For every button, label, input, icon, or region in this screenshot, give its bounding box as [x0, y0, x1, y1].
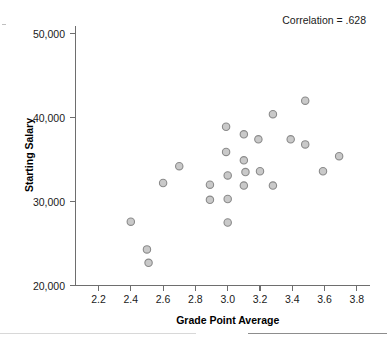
- y-axis-title: Starting Salary: [23, 118, 35, 192]
- x-ticks-group: [99, 286, 357, 292]
- data-point: [224, 172, 231, 179]
- data-point: [319, 168, 326, 175]
- data-point: [302, 97, 309, 104]
- y-tick-label-40000: 40,000: [33, 112, 65, 124]
- data-point: [224, 195, 231, 202]
- x-tick-label-3-8: 3.8: [350, 293, 365, 305]
- data-point: [224, 219, 231, 226]
- data-point: [206, 196, 213, 203]
- y-tick-label-30000: 30,000: [33, 196, 65, 208]
- data-point: [287, 136, 294, 143]
- axes-group: [76, 26, 371, 286]
- scatter-plot-figure: 50,000 40,000 30,000 20,000 2.2 2.4 2.6 …: [0, 0, 387, 342]
- x-tick-label-2-6: 2.6: [156, 293, 171, 305]
- data-point: [222, 123, 229, 130]
- data-point: [335, 152, 342, 159]
- data-points-group: [127, 97, 343, 267]
- x-axis-title: Grade Point Average: [176, 314, 279, 326]
- data-point: [240, 182, 247, 189]
- data-point: [240, 131, 247, 138]
- x-tick-label-2-2: 2.2: [91, 293, 106, 305]
- data-point: [255, 136, 262, 143]
- data-point: [242, 168, 249, 175]
- y-tick-labels-group: 50,000 40,000 30,000 20,000: [33, 28, 65, 292]
- plot-svg: 50,000 40,000 30,000 20,000 2.2 2.4 2.6 …: [0, 0, 387, 342]
- y-tick-label-20000: 20,000: [33, 280, 65, 292]
- x-tick-labels-group: 2.2 2.4 2.6 2.8 3.0 3.2 3.4 3.6 3.8: [91, 293, 364, 305]
- data-point: [159, 179, 166, 186]
- data-point: [256, 168, 263, 175]
- x-tick-label-3-4: 3.4: [285, 293, 300, 305]
- x-tick-label-3-2: 3.2: [253, 293, 268, 305]
- x-tick-label-2-8: 2.8: [188, 293, 203, 305]
- data-point: [143, 246, 150, 253]
- data-point: [269, 182, 276, 189]
- y-tick-label-50000: 50,000: [33, 28, 65, 40]
- data-point: [145, 259, 152, 266]
- data-point: [206, 181, 213, 188]
- correlation-annotation: Correlation = .628: [282, 14, 366, 26]
- data-point: [240, 157, 247, 164]
- data-point: [269, 110, 276, 117]
- x-tick-label-3-0: 3.0: [220, 293, 235, 305]
- y-ticks-group: [70, 34, 76, 286]
- data-point: [176, 163, 183, 170]
- data-point: [127, 218, 134, 225]
- data-point: [302, 141, 309, 148]
- data-point: [222, 148, 229, 155]
- x-tick-label-3-6: 3.6: [317, 293, 332, 305]
- x-tick-label-2-4: 2.4: [123, 293, 138, 305]
